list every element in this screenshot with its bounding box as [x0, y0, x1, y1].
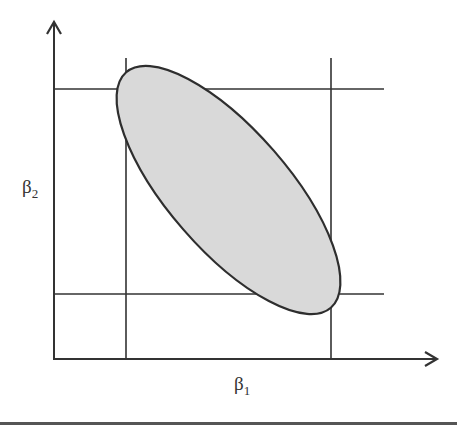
confidence-region-diagram: β2 β1	[0, 0, 457, 425]
y-axis-label: β2	[22, 176, 38, 201]
confidence-ellipse	[81, 33, 376, 347]
x-axis-label: β1	[234, 373, 250, 398]
